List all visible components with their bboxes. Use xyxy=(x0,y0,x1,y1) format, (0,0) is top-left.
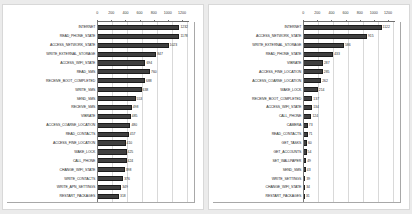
bar-category-label: CAMERA xyxy=(213,123,303,127)
bar-track: 688 xyxy=(97,77,188,85)
bar-value-label: 410 xyxy=(127,141,133,145)
bar xyxy=(97,52,156,57)
bar-row: CALL_PHONE124 xyxy=(213,112,400,120)
bar-value-label: 1178 xyxy=(180,34,187,38)
bar-row: READ_PHONE_STATE433 xyxy=(213,50,400,58)
bar-category-label: ACCESS_COARSE_LOCATION xyxy=(213,79,303,83)
bar-track: 425 xyxy=(97,148,188,156)
x-tick-label: 1000 xyxy=(164,11,172,16)
bar-row: RESTART_PACKAGES318 xyxy=(7,192,194,200)
bar-value-label: 287 xyxy=(324,61,330,65)
axis-baseline xyxy=(97,22,98,202)
bar-track: 318 xyxy=(97,192,188,200)
chart-panel-left: 020040060080010001200 INTERNET1232READ_P… xyxy=(2,4,204,210)
bar-row: RESTART_PACKAGES31 xyxy=(213,192,400,200)
bar-category-label: ACCESS_COARSE_LOCATION xyxy=(7,123,97,127)
bar-category-label: WRITE_EXTERNAL_STORAGE xyxy=(213,43,303,47)
bar-track: 34 xyxy=(303,183,394,191)
bar-value-label: 485 xyxy=(132,114,138,118)
bar-row: INTERNET1232 xyxy=(7,23,194,31)
bar-row: ACCESS_FINE_LOCATION285 xyxy=(213,68,400,76)
bar-value-label: 60 xyxy=(308,141,312,145)
bar-value-label: 39 xyxy=(306,177,310,181)
bar-track: 1122 xyxy=(303,23,394,31)
bar xyxy=(303,60,323,65)
bar-category-label: ACCESS_FINE_LOCATION xyxy=(213,70,303,74)
bar-category-label: CALL_PHONE xyxy=(213,114,303,118)
bar-row: WRITE_EXTERNAL_STORAGE586 xyxy=(213,41,400,49)
bar-row: GET_ACCOUNTS54 xyxy=(213,148,400,156)
bar-track: 287 xyxy=(303,59,394,67)
bar-row: ACCESS_COARSE_LOCATION480 xyxy=(7,121,194,129)
bar-category-label: VIBRATE xyxy=(7,114,97,118)
bar-value-label: 43 xyxy=(307,168,311,172)
bar-category-label: RECEIVE_SMS xyxy=(7,105,97,109)
bar-category-label: RECEIVE_BOOT_COMPLETED xyxy=(213,97,303,101)
bar-category-label: ACCESS_NETWORK_STATE xyxy=(7,43,97,47)
bar-row: RECEIVE_BOOT_COMPLETED688 xyxy=(7,77,194,85)
bar xyxy=(303,114,312,119)
bar xyxy=(303,87,318,92)
bar-value-label: 73 xyxy=(309,123,313,127)
bar-value-label: 425 xyxy=(128,150,134,154)
x-tick-label: 0 xyxy=(96,11,98,16)
x-tick-label: 1000 xyxy=(370,11,378,16)
bar-track: 1232 xyxy=(97,23,188,31)
bar-category-label: RECEIVE_BOOT_COMPLETED xyxy=(7,79,97,83)
bar xyxy=(97,194,119,199)
bar xyxy=(303,96,313,101)
bar-track: 760 xyxy=(97,68,188,76)
bar-row: ACCESS_NETWORK_STATE1023 xyxy=(7,41,194,49)
bar-value-label: 638 xyxy=(143,88,149,92)
bar-value-label: 847 xyxy=(157,52,163,56)
bar xyxy=(97,140,126,145)
bar-track: 31 xyxy=(303,192,394,200)
bar-row: WAKE_LOCK214 xyxy=(213,86,400,94)
bar xyxy=(303,105,312,110)
bar-row: WRITE_SETTINGS39 xyxy=(213,174,400,182)
x-axis-left: 020040060080010001200 xyxy=(97,11,189,22)
bar-value-label: 137 xyxy=(313,97,319,101)
bar-value-label: 398 xyxy=(126,168,132,172)
bar-row: READ_SMS760 xyxy=(7,68,194,76)
bar-track: 433 xyxy=(303,50,394,58)
bar-track: 285 xyxy=(303,68,394,76)
bar-track: 124 xyxy=(303,112,394,120)
x-tick-label: 0 xyxy=(302,11,304,16)
x-axis-right: 020040060080010001200 xyxy=(303,11,395,22)
bar-value-label: 760 xyxy=(151,70,157,74)
bar-row: READ_CONTACTS71 xyxy=(213,130,400,138)
bar xyxy=(97,167,125,172)
bar-category-label: ACCESS_NETWORK_STATE xyxy=(213,34,303,38)
bar xyxy=(97,60,146,65)
bar-category-label: VIBRATE xyxy=(213,61,303,65)
bar-category-label: WAKE_LOCK xyxy=(7,150,97,154)
bar-row: INTERNET1122 xyxy=(213,23,400,31)
bar xyxy=(303,34,367,39)
bar-category-label: CHANGE_WIFI_STATE xyxy=(7,168,97,172)
bar-track: 1178 xyxy=(97,32,188,40)
bar xyxy=(97,114,131,119)
bar-row: READ_PHONE_STATE1178 xyxy=(7,32,194,40)
x-tick-label: 200 xyxy=(314,11,320,16)
bar-track: 214 xyxy=(303,86,394,94)
bar-track: 376 xyxy=(97,174,188,182)
bar xyxy=(97,158,127,163)
bar-value-label: 262 xyxy=(322,79,328,83)
bar-row: ACCESS_NETWORK_STATE915 xyxy=(213,32,400,40)
bar xyxy=(97,69,150,74)
x-tick-label: 1200 xyxy=(384,11,392,16)
bar-row: VIBRATE287 xyxy=(213,59,400,67)
bar-category-label: RESTART_PACKAGES xyxy=(7,194,97,198)
bar-value-label: 915 xyxy=(368,34,374,38)
bar xyxy=(97,132,129,137)
chart-area-right: 020040060080010001200 INTERNET1122ACCESS… xyxy=(213,11,401,203)
bar xyxy=(97,43,169,48)
bar-value-label: 34 xyxy=(306,185,310,189)
bar-category-label: GET_ACCOUNTS xyxy=(213,150,303,154)
bar-track: 43 xyxy=(303,166,394,174)
bar-row: CHANGE_WIFI_STATE34 xyxy=(213,183,400,191)
bar-track: 49 xyxy=(303,157,394,165)
bar-value-label: 349 xyxy=(122,185,128,189)
bar-track: 553 xyxy=(97,94,188,102)
